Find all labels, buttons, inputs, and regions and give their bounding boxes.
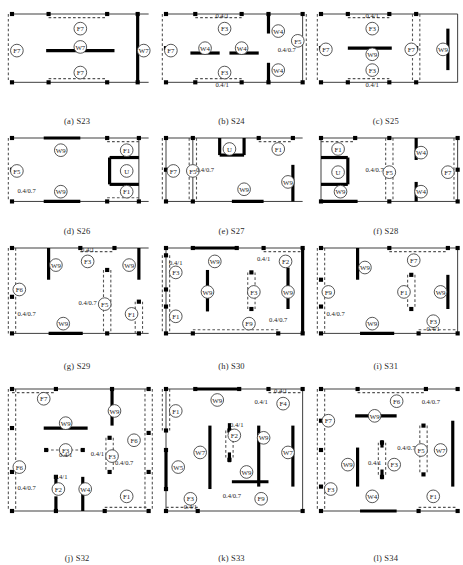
node-marker <box>267 387 271 391</box>
element-tag-f1: F1 <box>170 310 183 323</box>
dimension-label: 0.4/1 <box>426 325 439 332</box>
plan-drawing-s27: F7F5UF1W9W90.4/0.7 <box>154 128 308 238</box>
dimension-label: 0.4/1 <box>184 503 197 510</box>
panel-s29: W9F3W9F6F5F1W90.4/10.4/0.70.4/0.7(g) S29 <box>0 238 154 373</box>
node-marker <box>164 253 168 257</box>
dimension-label: 0.4/0.7 <box>17 187 36 194</box>
element-tag-f7: F7 <box>405 43 418 56</box>
element-tag-w7: W7 <box>434 444 447 457</box>
node-marker <box>250 307 254 311</box>
element-tag-f3: F3 <box>324 483 337 496</box>
dimension-label: 0.4/1 <box>230 421 243 428</box>
element-tag-f3: F3 <box>388 458 401 471</box>
tag-label: W9 <box>283 179 293 186</box>
node-marker <box>194 12 198 16</box>
node-marker <box>164 428 168 432</box>
panel-caption: (g) S29 <box>0 361 154 371</box>
tag-label: F3 <box>172 269 180 276</box>
node-marker <box>81 448 85 452</box>
element-tag-w9: W9 <box>258 431 271 444</box>
panel-s26: W9W9F5F1F1U0.4/0.7(d) S26 <box>0 128 154 238</box>
tag-label: W9 <box>242 469 252 476</box>
tag-label: W9 <box>360 264 370 271</box>
node-marker <box>455 168 459 172</box>
dimension-label: 0.4/0.7 <box>278 46 297 53</box>
panel-caption: (j) S32 <box>0 553 154 563</box>
plan-drawing-s26: W9W9F5F1F1U0.4/0.7 <box>0 128 154 238</box>
node-marker <box>319 387 323 391</box>
figure-panel-grid: F7W7F7F7W7(a) S23F3F3W4W4F7W4W4F50.4/10.… <box>0 0 463 565</box>
element-tag-w9: W9 <box>123 259 136 272</box>
element-tag-w9: W9 <box>358 261 371 274</box>
panel-s24: F3F3W4W4F7W4W4F50.4/10.4/10.4/0.7(b) S24 <box>154 0 308 128</box>
tag-label: F2 <box>231 432 239 439</box>
node-marker <box>416 509 420 513</box>
element-tag-w9: W9 <box>282 286 295 299</box>
node-marker <box>10 136 14 140</box>
node-marker <box>387 246 391 250</box>
element-tag-f1: F1 <box>427 490 440 503</box>
node-marker <box>387 136 391 140</box>
node-marker <box>301 509 305 513</box>
node-marker <box>47 12 51 16</box>
dimension-label: 0.4/0.7 <box>326 310 345 317</box>
element-tag-w4: W4 <box>366 490 379 503</box>
element-tag-w9: W9 <box>209 255 222 268</box>
dimension-label: 0.4/1 <box>257 255 270 262</box>
tag-label: W9 <box>335 188 345 195</box>
element-tag-f1: F1 <box>120 490 133 503</box>
node-marker <box>164 199 168 203</box>
tag-label: F2 <box>55 486 63 493</box>
node-marker <box>250 270 254 274</box>
node-marker <box>424 387 428 391</box>
tag-label: W7 <box>283 449 293 456</box>
node-marker <box>105 80 109 84</box>
node-marker <box>137 300 141 304</box>
element-tag-w9: W9 <box>108 405 121 418</box>
element-tag-f7: F7 <box>322 414 335 427</box>
element-tag-w4: W4 <box>79 483 92 496</box>
node-marker <box>387 80 391 84</box>
tag-label: F1 <box>275 146 282 153</box>
node-marker <box>319 199 323 203</box>
element-tag-w9: W9 <box>54 144 67 157</box>
element-tag-w5: W5 <box>172 461 185 474</box>
dimension-label: 0.4/1 <box>365 81 378 88</box>
node-marker <box>164 246 168 250</box>
element-tag-f3: F3 <box>248 286 261 299</box>
tag-label: F5 <box>385 169 393 176</box>
panel-s32: F7W9W9F6F3F3F6F2W4F10.4/10.4/10.4/0.70.4… <box>0 373 154 565</box>
element-tag-w9: W9 <box>241 466 254 479</box>
tag-label: W9 <box>110 408 120 415</box>
plan-drawing-s29: W9F3W9F6F5F1W90.4/10.4/0.70.4/0.7 <box>0 238 154 373</box>
element-tag-f7: F7 <box>74 22 87 35</box>
tag-label: F3 <box>221 69 229 76</box>
element-tag-w7: W7 <box>282 446 295 459</box>
element-tag-w9: W9 <box>211 394 224 407</box>
element-tag-w9: W9 <box>341 458 354 471</box>
node-marker <box>10 470 14 474</box>
tag-label: F1 <box>123 493 130 500</box>
plan-drawing-s34: F6F7W9F5W7W9F3F3W4F10.4/0.70.4/0.70.4/1 <box>309 373 463 565</box>
element-tag-f1: F1 <box>397 286 410 299</box>
node-marker <box>319 331 323 335</box>
tag-label: F1 <box>172 313 179 320</box>
tag-label: F3 <box>221 25 229 32</box>
element-tag-w9: W9 <box>238 183 251 196</box>
panel-caption: (d) S26 <box>0 226 154 236</box>
tag-label: F7 <box>322 46 330 53</box>
element-tag-f1: F1 <box>272 143 285 156</box>
element-tag-w7: W7 <box>137 44 150 57</box>
node-marker <box>416 331 420 335</box>
node-marker <box>108 436 112 440</box>
tag-label: F6 <box>16 464 24 471</box>
tag-label: W9 <box>124 262 134 269</box>
tag-label: F6 <box>393 398 401 405</box>
element-tag-f7: F7 <box>37 392 50 405</box>
element-tag-u: U <box>120 165 133 178</box>
node-marker <box>164 80 168 84</box>
node-marker <box>267 12 271 16</box>
node-marker <box>164 136 168 140</box>
tag-label: F3 <box>368 25 376 32</box>
tag-label: W4 <box>80 486 90 493</box>
